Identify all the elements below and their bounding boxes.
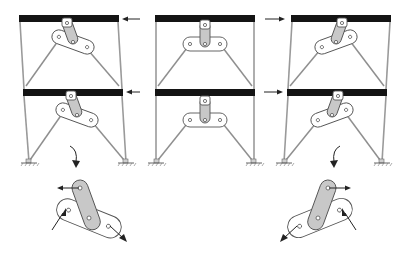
frame-diagram	[0, 0, 407, 257]
ground-support-icon	[246, 163, 264, 166]
ground-support-icon	[374, 163, 392, 166]
floor-beam	[155, 89, 255, 96]
brace-right	[88, 50, 119, 86]
ground-support-icon	[21, 163, 39, 166]
curved-pointer-arrow-icon	[330, 146, 340, 168]
link-mechanism	[50, 18, 96, 56]
panel-bottom-middle	[148, 89, 264, 166]
curved-pointer-arrow-icon	[70, 146, 80, 168]
panel-top-middle	[155, 15, 255, 89]
brace-left	[158, 120, 190, 160]
panel-top-left	[19, 15, 140, 89]
brace-right	[93, 123, 124, 160]
brace-left	[286, 123, 316, 160]
column-right	[122, 96, 126, 162]
column-right	[118, 22, 122, 89]
column-left	[24, 96, 29, 162]
ground-support-icon	[276, 163, 294, 166]
link-mechanism	[183, 20, 227, 51]
brace-left	[158, 44, 190, 86]
brace-right	[220, 44, 252, 86]
link-mechanism	[183, 96, 227, 127]
column-right	[382, 96, 386, 162]
load-arrow-right-icon	[264, 90, 283, 95]
column-left	[284, 96, 288, 162]
panel-bottom-right	[264, 89, 392, 168]
ground-support-icon	[118, 163, 136, 166]
brace-left	[290, 50, 320, 86]
load-arrow-right-icon	[265, 17, 285, 22]
column-right	[386, 22, 390, 89]
column-left	[288, 22, 292, 89]
detail-right	[280, 178, 356, 242]
load-arrow-left-icon	[122, 17, 140, 22]
link-mechanism	[54, 91, 100, 129]
column-left	[20, 22, 24, 89]
link-mechanism	[313, 18, 359, 56]
brace-left	[30, 114, 62, 160]
detail-left	[52, 178, 127, 242]
brace-right	[220, 120, 252, 160]
ground-support-icon	[148, 163, 166, 166]
link-mechanism	[309, 91, 355, 129]
brace-left	[26, 41, 58, 86]
panel-bottom-left	[21, 89, 140, 168]
panel-top-right	[265, 15, 391, 89]
load-arrow-left-icon	[126, 90, 140, 95]
brace-right	[350, 41, 384, 86]
brace-right	[346, 114, 380, 160]
